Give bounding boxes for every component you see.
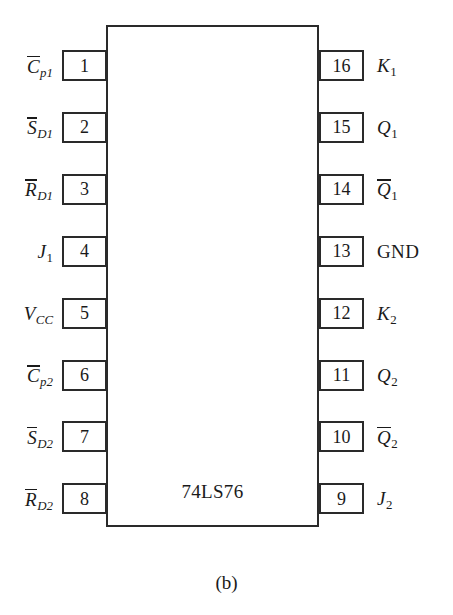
pin-number-box[interactable]: 7 xyxy=(62,421,107,452)
pin-number: 14 xyxy=(333,180,351,198)
pin-row[interactable]: SD12 xyxy=(8,112,107,143)
pin-row[interactable]: 9J2 xyxy=(319,483,445,514)
pin-number-box[interactable]: 16 xyxy=(319,50,364,81)
pin-number: 9 xyxy=(337,490,346,508)
pin-number: 4 xyxy=(80,242,89,260)
signal-name-overlined: R xyxy=(25,489,37,509)
pin-signal-label: Cp2 xyxy=(27,365,53,385)
signal-name-overlined: R xyxy=(25,179,37,199)
pin-row[interactable]: 15Q1 xyxy=(319,112,445,143)
pin-number-box[interactable]: 4 xyxy=(62,236,107,267)
signal-subscript: 2 xyxy=(386,499,392,512)
pin-number: 12 xyxy=(333,304,351,322)
pin-number: 1 xyxy=(80,57,89,75)
chip-part-number: 74LS76 xyxy=(106,481,319,503)
signal-name-overlined: C xyxy=(27,56,40,76)
signal-subscript: 1 xyxy=(391,128,397,141)
pin-signal-label: GND xyxy=(377,242,419,261)
pin-number: 7 xyxy=(80,428,89,446)
signal-subscript: 2 xyxy=(391,376,397,389)
pin-number: 6 xyxy=(80,366,89,384)
pin-row[interactable]: 10Q2 xyxy=(319,421,445,452)
pin-row[interactable]: RD28 xyxy=(8,483,107,514)
signal-name-overlined: C xyxy=(27,365,40,385)
pin-number-box[interactable]: 6 xyxy=(62,360,107,391)
pin-number-box[interactable]: 9 xyxy=(319,483,364,514)
signal-name: Q xyxy=(377,366,391,385)
pin-signal-label: J1 xyxy=(38,242,53,261)
pin-number-box[interactable]: 2 xyxy=(62,112,107,143)
pin-row[interactable]: Cp11 xyxy=(8,50,107,81)
pin-signal-label: SD2 xyxy=(27,427,53,447)
signal-subscript: p1 xyxy=(40,67,53,80)
chip-body-outline xyxy=(106,25,319,527)
ic-pinout-diagram: 74LS76 Cp11SD12RD13J14VCC5Cp26SD27RD28 1… xyxy=(0,0,453,615)
pin-signal-label: J2 xyxy=(377,489,392,508)
pin-signal-label: K1 xyxy=(377,56,397,75)
pin-row[interactable]: J14 xyxy=(8,236,107,267)
pin-number: 2 xyxy=(80,118,89,136)
pin-number-box[interactable]: 14 xyxy=(319,174,364,205)
pin-row[interactable]: 11Q2 xyxy=(319,360,445,391)
pin-signal-label: RD1 xyxy=(25,179,53,199)
signal-name: J xyxy=(377,489,385,508)
pin-row[interactable]: RD13 xyxy=(8,174,107,205)
pin-number-box[interactable]: 13 xyxy=(319,236,364,267)
pin-number-box[interactable]: 11 xyxy=(319,360,364,391)
pin-number: 15 xyxy=(333,118,351,136)
pin-signal-label: Q2 xyxy=(377,427,398,447)
pin-row[interactable]: 14Q1 xyxy=(319,174,445,205)
pin-row[interactable]: Cp26 xyxy=(8,360,107,391)
signal-name: J xyxy=(38,242,46,261)
pin-number-box[interactable]: 8 xyxy=(62,483,107,514)
pin-signal-label: Q1 xyxy=(377,118,398,137)
pin-number: 11 xyxy=(333,366,350,384)
pin-signal-label: Q1 xyxy=(377,179,398,199)
pin-number: 13 xyxy=(333,242,351,260)
pin-signal-label: SD1 xyxy=(27,117,53,137)
pin-row[interactable]: VCC5 xyxy=(8,298,107,329)
pin-number-box[interactable]: 10 xyxy=(319,421,364,452)
signal-subscript: CC xyxy=(36,314,53,327)
pin-number-box[interactable]: 12 xyxy=(319,298,364,329)
signal-subscript: D1 xyxy=(37,190,53,203)
pin-number-box[interactable]: 5 xyxy=(62,298,107,329)
pin-number: 3 xyxy=(80,180,89,198)
pin-number: 10 xyxy=(333,428,351,446)
signal-subscript: 2 xyxy=(390,314,396,327)
pin-number: 8 xyxy=(80,490,89,508)
signal-name: K xyxy=(377,56,390,75)
pin-number-box[interactable]: 15 xyxy=(319,112,364,143)
pin-signal-label: Cp1 xyxy=(27,56,53,76)
signal-subscript: 1 xyxy=(390,66,396,79)
signal-name-overlined: Q xyxy=(377,179,391,199)
pin-row[interactable]: 13GND xyxy=(319,236,445,267)
signal-subscript: D2 xyxy=(37,438,53,451)
signal-subscript: 1 xyxy=(391,190,397,203)
pin-number: 5 xyxy=(80,304,89,322)
pin-row[interactable]: SD27 xyxy=(8,421,107,452)
pin-signal-label: RD2 xyxy=(25,489,53,509)
pin-number: 16 xyxy=(333,57,351,75)
pin-number-box[interactable]: 1 xyxy=(62,50,107,81)
signal-name: K xyxy=(377,304,390,323)
signal-subscript: D1 xyxy=(37,128,53,141)
signal-name-overlined: S xyxy=(27,427,37,447)
signal-subscript: 1 xyxy=(47,252,53,265)
signal-name: V xyxy=(24,304,36,323)
pin-row[interactable]: 12K2 xyxy=(319,298,445,329)
pin-signal-label: K2 xyxy=(377,304,397,323)
pin-row[interactable]: 16K1 xyxy=(319,50,445,81)
signal-name: GND xyxy=(377,242,419,261)
signal-subscript: D2 xyxy=(37,500,53,513)
signal-name-overlined: Q xyxy=(377,427,391,447)
signal-name: Q xyxy=(377,118,391,137)
pin-signal-label: VCC xyxy=(24,304,53,323)
pin-number-box[interactable]: 3 xyxy=(62,174,107,205)
signal-subscript: p2 xyxy=(40,376,53,389)
signal-subscript: 2 xyxy=(391,438,397,451)
pin-signal-label: Q2 xyxy=(377,366,398,385)
signal-name-overlined: S xyxy=(27,117,37,137)
figure-caption: (b) xyxy=(0,572,453,594)
